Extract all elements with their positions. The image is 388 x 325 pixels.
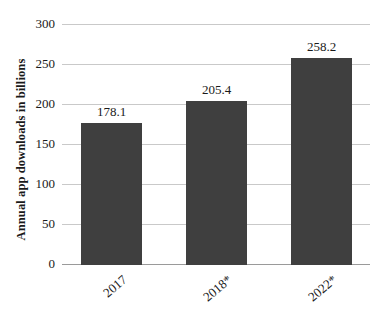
y-tick-label-100: 100 — [36, 176, 56, 192]
bar-chart: Annual app downloads in billions 300 250… — [0, 0, 388, 325]
value-label-2022: 258.2 — [307, 39, 336, 55]
bar-2017[interactable] — [81, 123, 142, 265]
y-tick-label-150: 150 — [36, 136, 56, 152]
x-tick-label-2017: 2017 — [74, 272, 130, 323]
y-tick-label-50: 50 — [42, 216, 55, 232]
x-tick-label-2022: 2022* — [284, 272, 340, 323]
y-tick-label-0: 0 — [49, 256, 56, 272]
bar-2018[interactable] — [186, 101, 247, 265]
bar-2022[interactable] — [291, 58, 352, 265]
bars-layer — [62, 24, 370, 265]
y-tick-label-300: 300 — [36, 16, 56, 32]
plot-area: 300 250 200 150 100 50 0 178.1 205.4 258… — [62, 24, 370, 265]
y-tick-label-250: 250 — [36, 56, 56, 72]
x-tick-label-2018: 2018* — [179, 272, 235, 323]
value-label-2017: 178.1 — [97, 104, 126, 120]
y-axis-title: Annual app downloads in billions — [14, 25, 29, 275]
value-label-2018: 205.4 — [202, 82, 231, 98]
y-tick-label-200: 200 — [36, 96, 56, 112]
